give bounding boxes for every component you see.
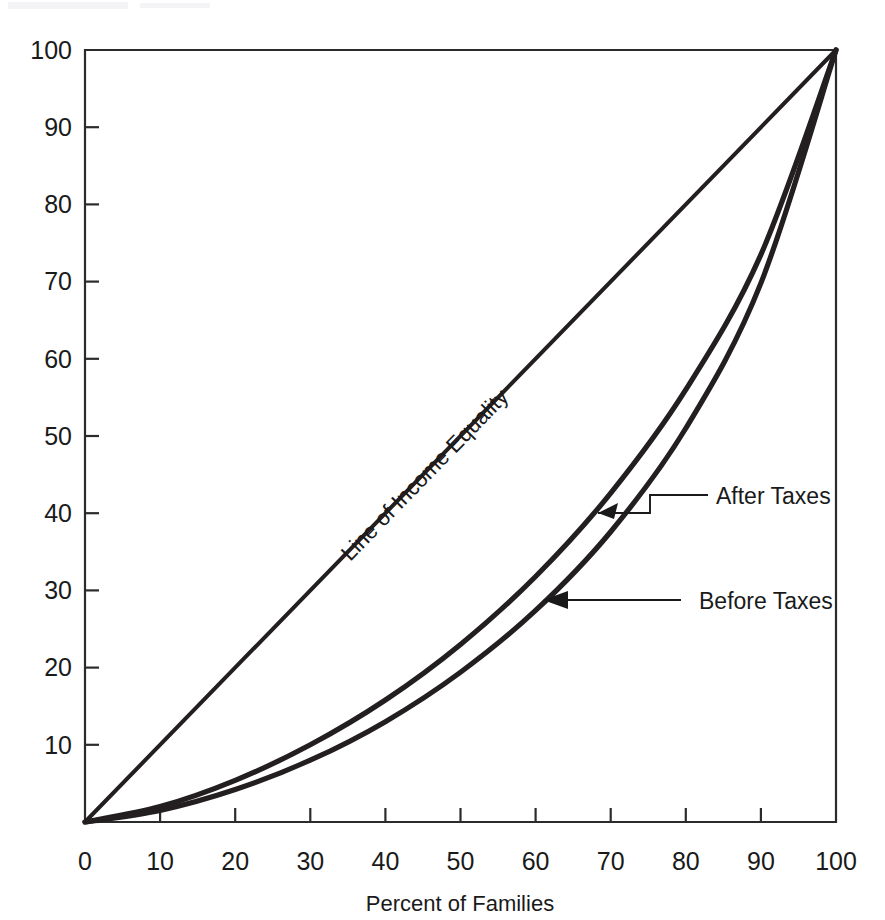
y-tick-label-80: 80 [44, 190, 72, 218]
equality-label-group: Line of Income Equality [336, 384, 513, 565]
x-tick-label-60: 60 [522, 847, 550, 875]
x-tick-label-0: 0 [78, 847, 92, 875]
x-tick-label-50: 50 [447, 847, 475, 875]
x-tick-label-90: 90 [747, 847, 775, 875]
y-axis-tick-labels: 100 90 80 70 60 50 40 30 20 10 [30, 36, 72, 759]
y-tick-label-30: 30 [44, 576, 72, 604]
x-tick-label-100: 100 [815, 847, 857, 875]
x-tick-label-10: 10 [146, 847, 174, 875]
x-axis-title: Percent of Families [366, 891, 554, 916]
x-tick-label-40: 40 [371, 847, 399, 875]
x-axis-ticks [160, 808, 761, 822]
y-tick-label-10: 10 [44, 731, 72, 759]
before-taxes-annotation: Before Taxes [543, 588, 833, 614]
x-tick-label-70: 70 [597, 847, 625, 875]
x-axis-tick-labels: 0 10 20 30 40 50 60 70 80 90 100 [78, 847, 857, 875]
x-tick-label-80: 80 [672, 847, 700, 875]
y-tick-label-100: 100 [30, 36, 72, 64]
after-taxes-label: After Taxes [716, 483, 831, 509]
y-tick-label-40: 40 [44, 499, 72, 527]
y-tick-label-60: 60 [44, 345, 72, 373]
equality-line-label: Line of Income Equality [336, 384, 513, 565]
lorenz-curve-chart: 100 90 80 70 60 50 40 30 20 10 0 10 [0, 0, 885, 920]
x-tick-label-30: 30 [296, 847, 324, 875]
y-tick-label-70: 70 [44, 267, 72, 295]
y-tick-label-90: 90 [44, 113, 72, 141]
x-tick-label-20: 20 [221, 847, 249, 875]
y-tick-label-20: 20 [44, 653, 72, 681]
y-axis-ticks [85, 127, 99, 822]
y-tick-label-50: 50 [44, 422, 72, 450]
before-taxes-label: Before Taxes [699, 588, 833, 614]
scan-noise-artifact [8, 2, 210, 9]
chart-canvas: 100 90 80 70 60 50 40 30 20 10 0 10 [0, 0, 885, 920]
